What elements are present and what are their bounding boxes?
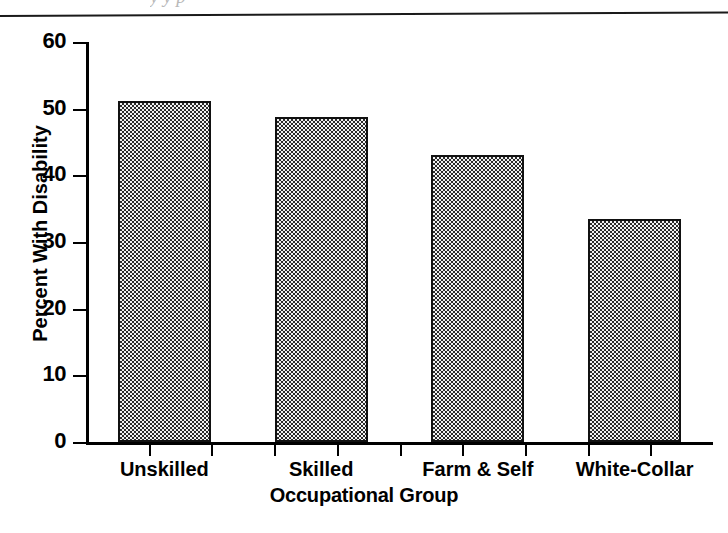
- x-axis-tick-9: [650, 443, 652, 456]
- x-axis-tick-6: [462, 443, 464, 456]
- bar-white-collar: [588, 219, 681, 442]
- x-axis-tick-1: [149, 443, 151, 456]
- y-axis-title: Percent With Disability: [29, 54, 52, 414]
- x-axis-tick-5: [400, 443, 402, 456]
- x-axis-title: Occupational Group: [0, 484, 728, 507]
- x-axis-label-farm-self: Farm & Self: [400, 459, 557, 479]
- x-axis-tick-8: [588, 443, 590, 456]
- y-axis-tick-0: [73, 442, 86, 444]
- figure-page: y y p 0102030405060 UnskilledSkilledFarm…: [0, 0, 728, 533]
- y-axis-tick-label-0: 0: [22, 430, 66, 452]
- y-axis-tick-60: [73, 42, 86, 44]
- bar-farm-self: [431, 155, 524, 442]
- x-axis-tick-4: [337, 443, 339, 456]
- x-axis-label-skilled: Skilled: [243, 459, 400, 479]
- y-axis-tick-20: [73, 309, 86, 311]
- bar-unskilled: [118, 101, 211, 442]
- y-axis-tick-30: [73, 242, 86, 244]
- x-axis-label-unskilled: Unskilled: [86, 459, 243, 479]
- bar-skilled: [275, 117, 368, 442]
- x-axis-label-white-collar: White-Collar: [556, 459, 713, 479]
- y-axis-tick-50: [73, 109, 86, 111]
- y-axis-tick-40: [73, 175, 86, 177]
- y-axis-tick-10: [73, 375, 86, 377]
- y-axis-tick-label-60: 60: [22, 30, 66, 52]
- x-axis-tick-3: [274, 443, 276, 456]
- x-axis-tick-2: [211, 443, 213, 456]
- x-axis-tick-7: [525, 443, 527, 456]
- y-axis-line: [86, 42, 89, 445]
- bar-chart: 0102030405060 UnskilledSkilledFarm & Sel…: [0, 0, 728, 533]
